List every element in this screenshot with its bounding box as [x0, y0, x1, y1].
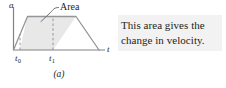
area-callout-label: Area — [60, 2, 79, 12]
acceleration-time-graph: a t t0 t1 Area (a) — [0, 0, 118, 88]
annotation-line-2: change in velocity. — [121, 33, 220, 48]
tick-label-t0: t0 — [15, 54, 21, 63]
tick-t1-sub: 1 — [52, 57, 55, 64]
tick-label-t1: t1 — [49, 54, 55, 63]
y-axis-label: a — [9, 1, 14, 10]
annotation-textbox: This area gives the change in velocity. — [118, 15, 222, 51]
x-axis-label: t — [107, 45, 110, 54]
figure-caption: (a) — [0, 70, 118, 80]
tick-t0-sub: 0 — [18, 57, 21, 64]
figure-panel: a t t0 t1 Area (a) This area gives the c… — [0, 0, 226, 88]
annotation-line-1: This area gives the — [121, 18, 220, 33]
